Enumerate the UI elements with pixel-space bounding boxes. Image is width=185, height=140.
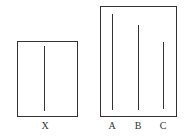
reference-line-x (44, 46, 45, 111)
label-c: C (156, 121, 170, 131)
label-a: A (105, 121, 119, 131)
comparison-line-a (112, 14, 113, 110)
comparison-line-c (163, 42, 164, 109)
label-x: X (38, 121, 52, 131)
comparison-line-b (138, 25, 139, 110)
label-b: B (131, 121, 145, 131)
reference-card (17, 41, 78, 117)
